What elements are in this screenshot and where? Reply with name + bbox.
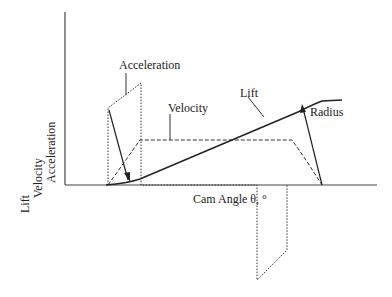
velocity-label: Velocity — [168, 102, 208, 114]
diagram-canvas — [0, 0, 392, 297]
y-label-lift: Lift — [19, 195, 31, 213]
radius-label: Radius — [310, 106, 343, 118]
lift-label: Lift — [240, 87, 258, 99]
acceleration-label: Acceleration — [119, 59, 180, 71]
y-label-acceleration: Acceleration — [45, 122, 57, 183]
lift-leader — [248, 97, 264, 117]
x-axis-label: Cam Angle θ, ° — [193, 193, 267, 205]
cam-profile-diagram: Lift Velocity Acceleration Acceleration … — [0, 0, 392, 297]
y-label-velocity: Velocity — [32, 158, 44, 198]
acceleration-arrow-head — [124, 172, 130, 182]
radius-arrow — [303, 108, 322, 185]
